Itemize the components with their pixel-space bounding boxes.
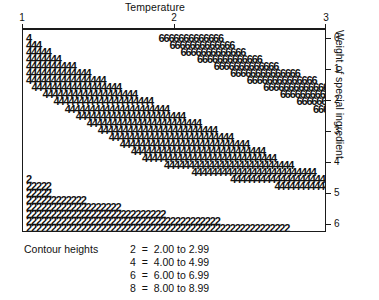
contour-symbol-grid: 4666666666666688888888888444666666666666… — [26, 32, 326, 232]
legend-entries: 2 = 2.00 to 2.994 = 4.00 to 4.996 = 6.00… — [130, 243, 209, 295]
plot-area: 4666666666666688888888888444666666666666… — [22, 29, 326, 232]
legend-title: Contour heights — [24, 243, 98, 255]
y-tick-5 — [326, 193, 331, 194]
contour-band-6: 66666666666666 — [313, 103, 326, 115]
y-tick-1 — [326, 69, 331, 70]
contour-band-4: 4444444444444444 — [274, 180, 326, 192]
legend-entry-6: 6 = 6.00 to 6.99 — [130, 269, 209, 282]
y-tick-4 — [326, 162, 331, 163]
y-tick-2 — [326, 100, 331, 101]
legend-entry-2: 2 = 2.00 to 2.99 — [130, 243, 209, 256]
x-tick-label-2: 2 — [167, 12, 181, 23]
legend-entry-4: 4 = 4.00 to 4.99 — [130, 256, 209, 269]
y-tick-3 — [326, 131, 331, 132]
x-tick-label-1: 1 — [15, 12, 29, 23]
ascii-contour-chart: Temperature 123 466666666666668888888888… — [0, 0, 379, 300]
legend-entry-8: 8 = 8.00 to 8.99 — [130, 282, 209, 295]
chart-title: Temperature — [0, 1, 310, 13]
y-axis-title: Weight of special ingredient — [332, 30, 346, 230]
y-tick-6 — [326, 224, 331, 225]
x-tick-label-3: 3 — [319, 12, 333, 23]
contour-band-2: 2222222222222222222222222222222222222222… — [26, 222, 289, 232]
y-tick-0 — [326, 38, 331, 39]
